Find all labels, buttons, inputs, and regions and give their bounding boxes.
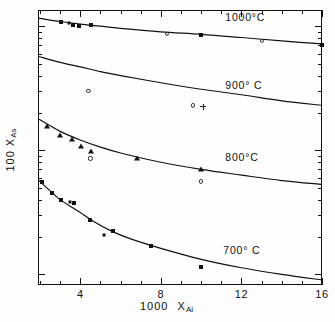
axis-tick xyxy=(38,200,42,201)
figure: 100 XAs 1000°C900° C800°C700° C 101.00.1… xyxy=(0,0,335,322)
axis-tick xyxy=(318,64,322,65)
data-point xyxy=(77,24,81,28)
axis-tick xyxy=(221,281,222,285)
axis-tick xyxy=(315,274,322,275)
axis-tick xyxy=(38,54,42,55)
x-tick-label: 4 xyxy=(77,288,84,300)
axis-tick xyxy=(241,278,242,285)
axis-tick xyxy=(60,10,61,14)
axis-tick xyxy=(38,113,42,114)
curve-label: 1000°C xyxy=(225,11,265,23)
axis-tick xyxy=(60,281,61,285)
axis-tick xyxy=(38,45,42,46)
data-point xyxy=(72,201,76,205)
axis-tick xyxy=(141,10,142,14)
axis-tick xyxy=(161,278,162,285)
axis-tick xyxy=(318,156,322,157)
data-point xyxy=(199,265,203,269)
axis-tick xyxy=(318,162,322,163)
axis-tick xyxy=(38,169,42,170)
axis-tick xyxy=(318,188,322,189)
data-point xyxy=(149,244,153,248)
axis-tick xyxy=(302,10,303,14)
axis-tick xyxy=(302,281,303,285)
plot-area: 1000°C900° C800°C700° C xyxy=(38,10,322,285)
data-point xyxy=(69,137,75,142)
axis-tick xyxy=(315,150,322,151)
axis-tick xyxy=(262,281,263,285)
data-point xyxy=(50,191,54,195)
data-point xyxy=(165,32,169,36)
axis-tick xyxy=(38,64,42,65)
axis-tick xyxy=(221,10,222,14)
data-point xyxy=(259,39,263,43)
axis-tick xyxy=(141,281,142,285)
curve-label: 900° C xyxy=(225,79,262,91)
axis-tick xyxy=(318,237,322,238)
x-tick-label: 12 xyxy=(235,288,248,300)
axis-tick xyxy=(100,10,101,14)
data-point xyxy=(198,167,204,172)
data-point xyxy=(191,103,195,107)
axis-tick xyxy=(318,215,322,216)
axis-tick xyxy=(80,10,81,17)
axis-tick xyxy=(315,26,322,27)
axis-tick xyxy=(322,278,323,285)
axis-tick xyxy=(318,32,322,33)
data-point xyxy=(199,33,203,37)
axis-tick xyxy=(38,32,42,33)
axis-tick xyxy=(40,281,41,285)
axis-tick xyxy=(318,54,322,55)
axis-tick xyxy=(38,274,45,275)
axis-tick xyxy=(282,281,283,285)
axis-tick xyxy=(38,162,42,163)
axis-tick xyxy=(38,178,42,179)
x-axis-title-coefficient: 1000 xyxy=(140,300,168,312)
axis-tick xyxy=(318,45,322,46)
axis-tick xyxy=(201,281,202,285)
axis-tick xyxy=(181,10,182,14)
data-point xyxy=(111,229,115,233)
axis-tick xyxy=(40,10,41,14)
axis-tick xyxy=(201,10,202,14)
axis-tick xyxy=(38,237,42,238)
axis-tick xyxy=(318,76,322,77)
curve-label: 800°C xyxy=(225,151,258,163)
data-point xyxy=(200,104,206,110)
axis-tick xyxy=(38,188,42,189)
axis-tick xyxy=(80,278,81,285)
axis-tick xyxy=(121,10,122,14)
curve-1000c xyxy=(39,18,322,44)
data-point xyxy=(71,23,75,27)
data-point xyxy=(59,20,63,24)
axis-tick xyxy=(100,281,101,285)
curve-label: 700° C xyxy=(223,244,260,256)
axis-tick xyxy=(318,178,322,179)
x-tick-label: 8 xyxy=(158,288,165,300)
axis-tick xyxy=(318,91,322,92)
data-point xyxy=(88,218,92,222)
y-axis-title-subscript: As xyxy=(9,128,18,137)
curve-900c xyxy=(39,56,322,105)
x-axis-title-subscript: Al xyxy=(186,305,193,314)
axis-tick xyxy=(38,156,42,157)
axis-tick xyxy=(38,150,45,151)
x-axis-title: 1000 XAl xyxy=(140,300,193,314)
y-axis-title-variable: X xyxy=(4,138,16,146)
axis-tick xyxy=(121,281,122,285)
y-axis-title: 100 XAs xyxy=(4,128,18,171)
data-point xyxy=(59,198,63,202)
axis-tick xyxy=(38,76,42,77)
axis-tick xyxy=(318,200,322,201)
axis-tick xyxy=(38,26,45,27)
data-point xyxy=(89,23,93,27)
axis-tick xyxy=(38,38,42,39)
y-axis-title-coefficient: 100 xyxy=(4,150,16,171)
axis-tick xyxy=(181,281,182,285)
axis-tick xyxy=(38,91,42,92)
curve-800c xyxy=(39,119,322,184)
data-point xyxy=(88,156,92,160)
data-point xyxy=(78,143,84,148)
axis-tick xyxy=(318,113,322,114)
data-point xyxy=(199,179,203,183)
